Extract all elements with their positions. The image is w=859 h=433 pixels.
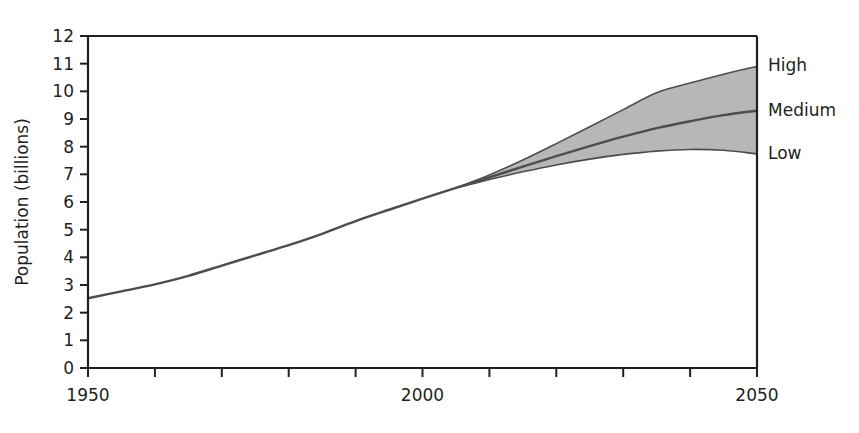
y-axis-tick-label: 7 bbox=[63, 164, 74, 184]
population-projection-chart: 0123456789101112 195020002050 HighMedium… bbox=[0, 0, 859, 433]
x-axis-tick-label: 2050 bbox=[735, 385, 778, 405]
y-axis-tick-label: 10 bbox=[52, 81, 74, 101]
series-label-high: High bbox=[768, 55, 807, 75]
y-axis-tick-label: 9 bbox=[63, 109, 74, 129]
y-axis-title: Population (billions) bbox=[12, 118, 32, 286]
y-axis-tick-label: 4 bbox=[63, 247, 74, 267]
y-axis-tick-label: 2 bbox=[63, 303, 74, 323]
y-axis-tick-label: 0 bbox=[63, 358, 74, 378]
y-axis-tick-label: 8 bbox=[63, 137, 74, 157]
chart-canvas: 0123456789101112 195020002050 HighMedium… bbox=[0, 0, 859, 433]
y-axis-tick-label: 11 bbox=[52, 54, 74, 74]
x-axis-tick-label: 2000 bbox=[401, 385, 444, 405]
y-axis-tick-label: 3 bbox=[63, 275, 74, 295]
y-axis-tick-label: 5 bbox=[63, 220, 74, 240]
series-label-medium: Medium bbox=[768, 100, 836, 120]
x-axis-tick-label: 1950 bbox=[66, 385, 109, 405]
y-axis-tick-label: 1 bbox=[63, 330, 74, 350]
series-label-low: Low bbox=[768, 143, 802, 163]
y-axis-tick-label: 6 bbox=[63, 192, 74, 212]
y-axis-tick-label: 12 bbox=[52, 26, 74, 46]
